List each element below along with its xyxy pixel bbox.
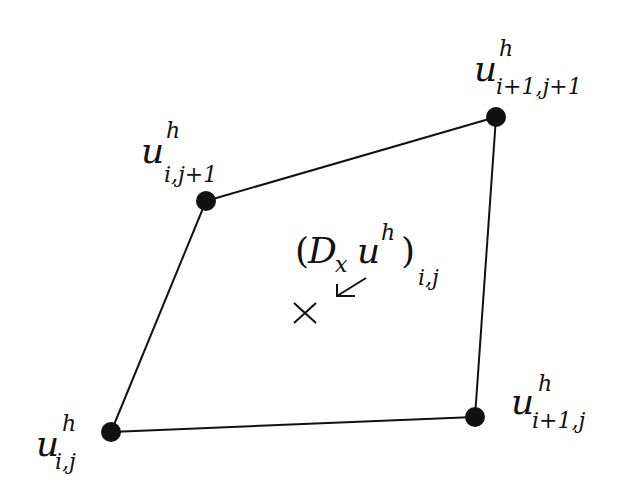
label-u-i1-j: u h i+1,j xyxy=(511,371,585,433)
node-i1-j1 xyxy=(486,107,506,127)
operator-d-sub: x xyxy=(335,252,348,277)
label-sup: h xyxy=(538,371,552,396)
node-i-j xyxy=(101,422,121,442)
cross-marker-icon xyxy=(294,303,316,323)
arrow-icon xyxy=(337,278,366,296)
label-u-i-j: u h i,j xyxy=(36,411,76,474)
label-sup: h xyxy=(166,118,180,143)
label-u-i1-j1: u h i+1,j+1 xyxy=(474,36,582,99)
node-i1-j xyxy=(465,407,485,427)
operator-u: u xyxy=(357,230,380,271)
operator-u-sup: h xyxy=(381,220,395,245)
label-base: u xyxy=(141,130,164,171)
quad-cell-diagram: u h i,j u h i+1,j u h i+1,j+1 u h i,j+1 … xyxy=(0,0,621,502)
label-base: u xyxy=(474,48,497,89)
label-sup: h xyxy=(499,36,513,61)
label-sub: i,j xyxy=(55,449,76,474)
label-sub: i,j+1 xyxy=(164,162,217,187)
paren-open: ( xyxy=(295,230,309,271)
label-sub: i+1,j+1 xyxy=(496,74,582,99)
edge-bottom xyxy=(111,417,475,432)
operator-d: D xyxy=(307,230,337,271)
operator-label: ( D x u h ) i,j xyxy=(295,220,439,290)
label-sup: h xyxy=(62,411,76,436)
operator-sub: i,j xyxy=(418,265,439,290)
paren-close: ) xyxy=(401,230,415,271)
label-sub: i+1,j xyxy=(532,408,585,433)
node-i-j1 xyxy=(196,191,216,211)
label-base: u xyxy=(511,381,534,422)
edge-left xyxy=(111,201,206,432)
edge-right xyxy=(475,117,496,417)
edge-top xyxy=(206,117,496,201)
label-u-i-j1: u h i,j+1 xyxy=(141,118,217,187)
